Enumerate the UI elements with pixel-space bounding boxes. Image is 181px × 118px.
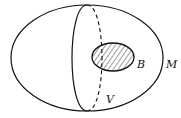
manifold-diagram: B M V (0, 0, 181, 118)
label-m: M (165, 58, 178, 71)
hatched-region-b (92, 43, 134, 71)
label-v: V (106, 93, 115, 106)
label-b: B (136, 58, 145, 71)
cross-section-v-front (72, 5, 87, 111)
